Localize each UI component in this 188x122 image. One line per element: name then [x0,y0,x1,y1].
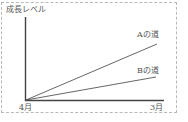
y-axis-label: 成長レベル [6,6,46,14]
series-b-label: Bの道 [137,67,159,75]
x-tick-end: 3月 [150,104,163,112]
series-a-label: Aの道 [137,31,159,39]
x-tick-start: 4月 [19,104,32,112]
line-series-b [26,77,156,100]
